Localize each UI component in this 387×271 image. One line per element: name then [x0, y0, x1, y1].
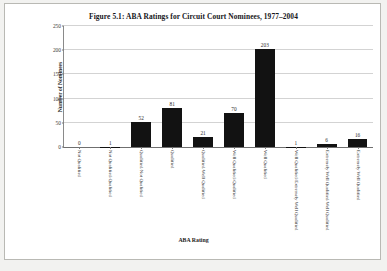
- bar-slot: 21: [188, 26, 219, 147]
- bar-value-label: 1: [294, 140, 297, 146]
- x-tick-mark: [358, 147, 359, 149]
- x-tick-label: Qualified/Not Qualified: [138, 150, 143, 197]
- bar-value-label: 21: [200, 130, 205, 136]
- plot-wrapper: Number of Nominees 050100150200250 01528…: [36, 26, 375, 148]
- bar-value-label: 81: [169, 101, 174, 107]
- bar-slot: 0: [64, 26, 95, 147]
- bars-layer: 01528121702031616: [64, 26, 373, 147]
- x-tick-mark: [79, 147, 80, 149]
- y-tick-label: 50: [56, 120, 61, 126]
- y-tick-label: 0: [58, 144, 61, 150]
- bar-value-label: 16: [355, 132, 360, 138]
- bar[interactable]: [255, 49, 275, 147]
- x-tick-label: Qualified: [169, 150, 174, 168]
- x-tick-label: Extremely Well Qualified/Well Qualified: [324, 150, 329, 230]
- x-tick-mark: [203, 147, 204, 149]
- x-tick-mark: [110, 147, 111, 149]
- x-tick-label: Not Qualified/Qualified: [107, 150, 112, 197]
- bar-value-label: 1: [109, 140, 112, 146]
- bar-slot: 203: [249, 26, 280, 147]
- x-tick-mark: [296, 147, 297, 149]
- bar-value-label: 0: [78, 140, 81, 146]
- x-tick-mark: [265, 147, 266, 149]
- bar[interactable]: [131, 122, 151, 147]
- x-tick-label: Well Qualified/Qualified: [231, 150, 236, 199]
- x-tick-mark: [141, 147, 142, 149]
- bar-value-label: 6: [325, 137, 328, 143]
- bar-value-label: 52: [139, 115, 144, 121]
- x-tick-label: Well Qualified: [262, 150, 267, 179]
- bar-slot: 16: [342, 26, 373, 147]
- y-tick-label: 100: [53, 96, 61, 102]
- bar[interactable]: [162, 108, 182, 147]
- chart-title: Figure 5.1: ABA Ratings for Circuit Cour…: [5, 12, 382, 21]
- x-tick-label: Extremely Well Qualified: [355, 150, 360, 200]
- y-tick-label: 150: [53, 71, 61, 77]
- bar-value-label: 203: [261, 42, 269, 48]
- bar-value-label: 70: [231, 106, 236, 112]
- bar[interactable]: [348, 139, 368, 147]
- figure-root: Figure 5.1: ABA Ratings for Circuit Cour…: [0, 0, 387, 271]
- x-tick-mark: [327, 147, 328, 149]
- bar-slot: 70: [219, 26, 250, 147]
- bar[interactable]: [193, 137, 213, 147]
- x-axis-title: ABA Rating: [5, 237, 382, 243]
- bar-slot: 52: [126, 26, 157, 147]
- x-tick-mark: [234, 147, 235, 149]
- bar-slot: 1: [95, 26, 126, 147]
- plot-area: 050100150200250 01528121702031616: [63, 26, 373, 148]
- bar-slot: 81: [157, 26, 188, 147]
- y-tick-label: 250: [53, 23, 61, 29]
- x-tick-label: Not Qualified: [76, 150, 81, 177]
- x-tick-mark: [172, 147, 173, 149]
- y-tick-label: 200: [53, 47, 61, 53]
- bar[interactable]: [224, 113, 244, 147]
- x-tick-label: Qualified/Well Qualified: [200, 150, 205, 199]
- x-tick-label: Well Qualified/Extremely Well Qualified: [293, 150, 298, 230]
- bar-slot: 1: [280, 26, 311, 147]
- bar-slot: 6: [311, 26, 342, 147]
- figure-page-frame: Figure 5.1: ABA Ratings for Circuit Cour…: [4, 3, 381, 260]
